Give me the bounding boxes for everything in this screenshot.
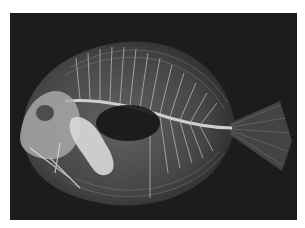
fish-xray-image xyxy=(10,13,297,220)
fish-xray-illustration xyxy=(10,13,297,220)
